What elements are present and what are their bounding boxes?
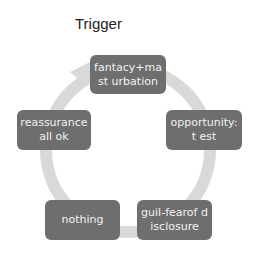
node-left: reassurance all ok: [17, 110, 91, 150]
node-top: fantacy+mast urbation: [90, 55, 166, 94]
node-label: reassurance all ok: [20, 116, 88, 144]
node-label: guil-fearof disclosure: [140, 206, 209, 234]
node-right: opportunity:t est: [166, 110, 242, 150]
node-bottom-right: guil-fearof disclosure: [137, 200, 212, 240]
node-bottom-left: nothing: [45, 200, 120, 240]
node-label: fantacy+mast urbation: [93, 61, 163, 89]
node-label: opportunity:t est: [169, 116, 239, 144]
node-label: nothing: [62, 213, 104, 227]
